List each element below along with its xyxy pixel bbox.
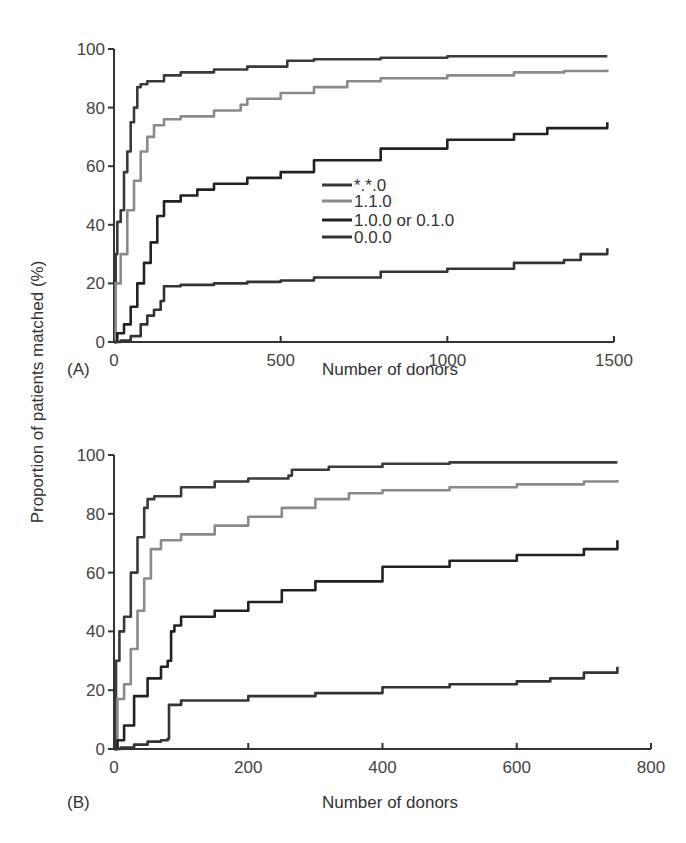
y-axis-title: Proportion of patients matched (%) bbox=[28, 261, 47, 524]
panel-b-label: (B) bbox=[67, 793, 90, 812]
legend-item: 0.0.0 bbox=[322, 228, 392, 247]
panel-a-label: (A) bbox=[67, 360, 90, 379]
x-tick-label: 600 bbox=[503, 758, 531, 777]
y-tick-label: 60 bbox=[86, 157, 105, 176]
series-line--0 bbox=[114, 462, 617, 749]
y-tick-label: 80 bbox=[86, 99, 105, 118]
legend-label: 1.1.0 bbox=[354, 192, 392, 211]
y-tick-label: 100 bbox=[77, 446, 105, 465]
y-tick-label: 80 bbox=[86, 505, 105, 524]
series-line-1-0-0-or-0-1-0 bbox=[114, 540, 617, 749]
figure: Proportion of patients matched (%) 05001… bbox=[0, 0, 686, 843]
y-tick-label: 40 bbox=[86, 622, 105, 641]
x-tick-label: 1500 bbox=[595, 351, 633, 370]
panel-a-x-axis-title: Number of donors bbox=[322, 360, 458, 379]
legend-label: 0.0.0 bbox=[354, 228, 392, 247]
panel-b: 0200400600800020406080100 (B) Number of … bbox=[67, 446, 665, 812]
y-tick-label: 0 bbox=[96, 740, 105, 759]
x-tick-label: 500 bbox=[266, 351, 294, 370]
legend-item: 1.1.0 bbox=[322, 192, 392, 211]
y-tick-label: 0 bbox=[96, 333, 105, 352]
series-line-0-0-0 bbox=[114, 248, 607, 342]
series-line-0-0-0 bbox=[114, 667, 617, 749]
panel-b-lines bbox=[114, 462, 617, 749]
y-tick-label: 100 bbox=[77, 40, 105, 59]
x-tick-label: 800 bbox=[637, 758, 665, 777]
x-tick-label: 0 bbox=[109, 351, 118, 370]
series-line-1-1-0 bbox=[114, 480, 617, 749]
y-tick-label: 40 bbox=[86, 216, 105, 235]
y-tick-label: 60 bbox=[86, 564, 105, 583]
x-tick-label: 400 bbox=[368, 758, 396, 777]
y-tick-label: 20 bbox=[86, 681, 105, 700]
legend: *.*.0 1.1.0 1.0.0 or 0.1.0 0.0.0 bbox=[322, 176, 454, 247]
x-tick-label: 200 bbox=[234, 758, 262, 777]
x-tick-label: 0 bbox=[109, 758, 118, 777]
panel-b-x-axis-title: Number of donors bbox=[322, 793, 458, 812]
panel-a: 050010001500020406080100 (A) Number of d… bbox=[67, 40, 633, 379]
y-tick-label: 20 bbox=[86, 274, 105, 293]
